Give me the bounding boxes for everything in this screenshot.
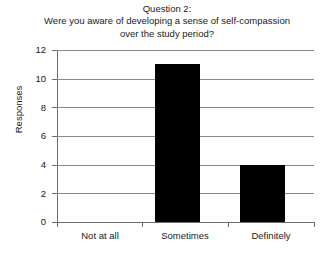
x-tick-mark-2 [228,223,229,227]
chart-title-line-3: over the study period? [0,28,334,40]
chart-title-line-1: Question 2: [0,3,334,15]
chart-title: Question 2: Were you aware of developing… [0,3,334,40]
y-tick-label-10: 10 [6,74,46,84]
bar-definitely [240,165,285,222]
chart-title-line-2: Were you aware of developing a sense of … [0,15,334,27]
x-tick-label-sometimes: Sometimes [142,230,228,241]
y-tick-label-2: 2 [6,189,46,199]
x-tick-mark-1 [142,223,143,227]
y-tick-label-8: 8 [6,103,46,113]
bar-sometimes [155,64,200,222]
y-tick-label-6: 6 [6,131,46,141]
plot-area [57,50,314,222]
x-axis-spine [57,222,315,223]
y-tick-label-12: 12 [6,45,46,55]
x-tick-mark-3 [314,223,315,227]
bar-chart-figure: Question 2: Were you aware of developing… [0,0,334,258]
x-tick-label-not-at-all: Not at all [57,230,143,241]
x-tick-label-definitely: Definitely [228,230,314,241]
y-tick-label-4: 4 [6,160,46,170]
y-tick-label-0: 0 [6,217,46,227]
gridline-12 [57,50,314,51]
x-tick-mark-0 [57,223,58,227]
